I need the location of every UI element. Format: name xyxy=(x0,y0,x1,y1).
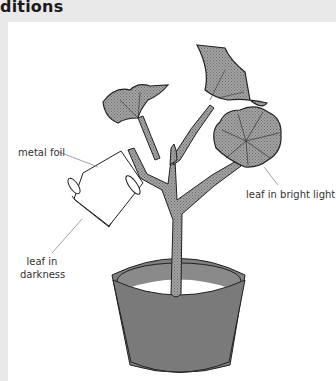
leader-leaf-bright xyxy=(264,167,278,185)
label-leaf-in-darkness: leaf in darkness xyxy=(20,255,64,281)
leaf-top xyxy=(197,45,267,106)
label-leaf-in-bright-light: leaf in bright light xyxy=(246,188,335,201)
label-metal-foil: metal foil xyxy=(18,146,65,159)
label-leaf-in-darkness-line2: darkness xyxy=(20,268,64,281)
metal-foil xyxy=(66,151,143,227)
label-leaf-in-darkness-line1: leaf in xyxy=(20,255,64,268)
leaf-bright-light xyxy=(214,107,281,167)
leaf-left xyxy=(103,85,168,123)
leader-leaf-darkness xyxy=(52,219,82,253)
